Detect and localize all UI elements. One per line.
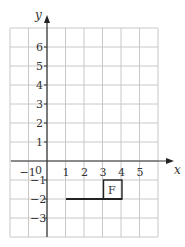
y-axis-label: y <box>34 8 42 22</box>
tick-labels: −1012345654321−1−2−3 <box>20 41 144 225</box>
y-tick-label: −2 <box>30 193 46 206</box>
shape-f: F <box>66 180 122 199</box>
y-tick-label: −3 <box>30 212 46 225</box>
x-axis-label: x <box>174 163 181 177</box>
y-tick-label: 1 <box>36 136 43 149</box>
y-tick-label: −1 <box>30 174 46 187</box>
x-tick-label: 1 <box>63 166 70 179</box>
y-tick-label: 5 <box>36 60 43 73</box>
x-tick-label: 3 <box>100 166 107 179</box>
x-axis-arrow-icon <box>166 158 174 164</box>
y-tick-label: 2 <box>36 117 43 130</box>
y-axis-arrow-icon <box>44 15 50 23</box>
x-tick-label: 5 <box>137 166 144 179</box>
coordinate-grid: x y −1012345654321−1−2−3 F <box>0 0 185 247</box>
y-tick-label: 4 <box>36 79 43 92</box>
y-tick-label: 6 <box>36 41 43 54</box>
y-tick-label: 3 <box>36 98 43 111</box>
shape-label: F <box>108 184 116 197</box>
x-tick-label: 4 <box>118 166 125 179</box>
x-tick-label: 2 <box>81 166 88 179</box>
